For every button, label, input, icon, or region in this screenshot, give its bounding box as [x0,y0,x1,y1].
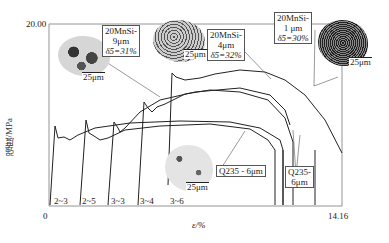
scale-bar: 25μm [186,182,209,192]
stress-strain-figure: 20.00 0 14.16 ε/% 强度/MPa 2~3 2~5 3~3 3~4… [0,0,389,243]
label-line: δ5=31% [105,46,137,56]
label-line: 4μm [210,40,242,50]
specimen-label: 2~3 [54,196,68,206]
label-line: 20MnSi- [277,13,309,23]
scale-bar: 25μm [82,72,105,82]
x-axis-zero-tick: 0 [43,211,48,221]
label-line: 20MnSi- [105,26,137,36]
label-line: δ5=30% [277,33,309,43]
y-axis-max-tick: 20.00 [26,19,46,29]
x-axis-max-tick: 14.16 [328,211,348,221]
scale-bar: 25μm [184,49,207,59]
label-line: 20MnSi- [210,30,242,40]
label-q235-6um-a: Q235 - 6μm [216,165,266,177]
label-20mnsi-1um: 20MnSi- 1 μm δ5=30% [274,12,312,44]
label-line: 6μm [288,177,311,187]
y-axis-title: 强度/MPa [2,118,15,156]
specimen-label: 2~5 [82,196,96,206]
specimen-label: 3~3 [111,196,125,206]
label-20mnsi-9um: 20MnSi- 9μm δ5=31% [102,25,140,57]
specimen-label: 3~4 [140,196,154,206]
scale-bar: 25μm [349,57,372,67]
label-line: Q235- [288,167,311,177]
label-line: 1 μm [277,23,309,33]
label-20mnsi-4um: 20MnSi- 4μm δ5=32% [207,29,245,61]
label-line: 9μm [105,36,137,46]
label-q235-6um-b: Q235- 6μm [285,166,314,188]
label-line: δ5=32% [210,50,242,60]
x-axis-title: ε/% [192,220,206,230]
specimen-label: 3~6 [170,196,184,206]
